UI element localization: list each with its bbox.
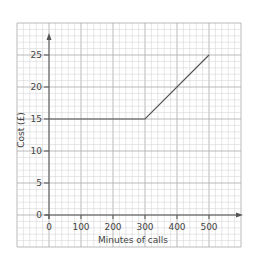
y-tick-label: 25 — [31, 50, 42, 60]
y-tick-label: 10 — [31, 146, 43, 156]
x-axis-arrow-icon — [236, 213, 243, 218]
y-tick-label: 15 — [31, 114, 42, 124]
x-tick-label: 300 — [136, 222, 153, 232]
x-axis-title: Minutes of calls — [98, 235, 168, 245]
y-tick-label: 20 — [31, 82, 43, 92]
cost-vs-minutes-chart: 01002003004005000510152025 Minutes of ca… — [0, 0, 253, 261]
y-tick-label: 0 — [36, 210, 42, 220]
x-tick-label: 200 — [104, 222, 121, 232]
y-axis-arrow-icon — [47, 33, 52, 40]
x-tick-label: 0 — [46, 222, 52, 232]
y-axis-title: Cost (£) — [16, 112, 26, 148]
y-tick-label: 5 — [36, 178, 42, 188]
x-tick-label: 400 — [168, 222, 185, 232]
x-tick-label: 500 — [200, 222, 217, 232]
x-tick-label: 100 — [72, 222, 89, 232]
